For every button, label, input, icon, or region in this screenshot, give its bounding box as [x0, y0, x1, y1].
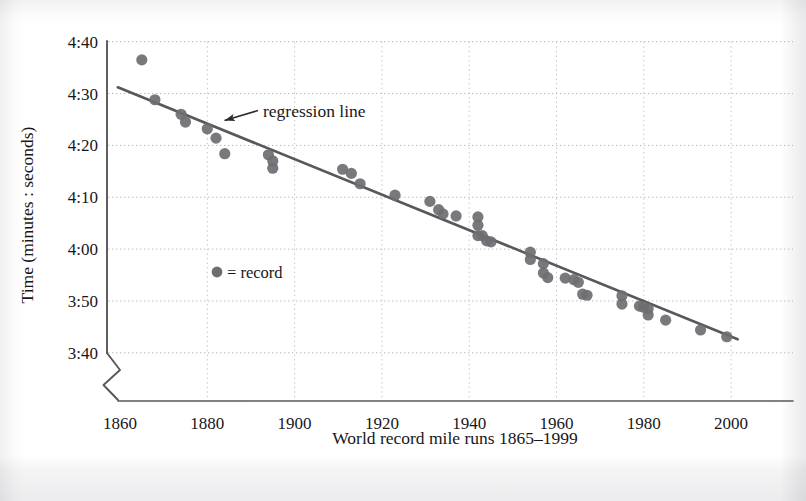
data-point — [219, 148, 230, 159]
data-point — [180, 116, 191, 127]
data-point — [542, 272, 553, 283]
data-point — [643, 309, 654, 320]
data-point — [581, 290, 592, 301]
data-point — [149, 94, 160, 105]
data-point — [267, 163, 278, 174]
data-point — [424, 196, 435, 207]
grid-lines-vertical — [207, 42, 731, 398]
y-axis-title: Time (minutes : seconds) — [17, 126, 37, 303]
y-axis-tick-labels: 4:404:304:204:104:003:503:40 — [68, 33, 98, 363]
data-point — [485, 236, 496, 247]
y-tick-label-3-50: 3:50 — [68, 292, 98, 311]
regression-line-annotation: regression line — [225, 101, 366, 121]
y-tick-label-3-40: 3:40 — [68, 344, 98, 363]
annotation-arrow-icon — [225, 111, 259, 121]
data-point — [472, 220, 483, 231]
legend-label: = record — [227, 263, 283, 282]
data-point — [437, 208, 448, 219]
data-point — [616, 298, 627, 309]
data-point — [451, 210, 462, 221]
data-point — [721, 331, 732, 342]
data-point — [573, 277, 584, 288]
data-point — [210, 133, 221, 144]
y-tick-label-4-40: 4:40 — [68, 33, 98, 52]
x-axis-title: World record mile runs 1865–1999 — [332, 428, 578, 448]
x-tick-label-2000: 2000 — [714, 414, 748, 433]
y-tick-label-4-00: 4:00 — [68, 240, 98, 259]
mile-run-scatter-figure: 4:404:304:204:104:003:503:40 18601880190… — [0, 0, 806, 501]
data-points-group — [136, 54, 732, 342]
y-axis-break-zigzag — [104, 353, 121, 400]
data-point — [346, 168, 357, 179]
legend-marker-icon — [212, 267, 223, 278]
data-point — [136, 54, 147, 65]
x-tick-label-1900: 1900 — [278, 414, 312, 433]
data-point — [202, 123, 213, 134]
grid-lines-horizontal — [108, 42, 793, 353]
chart-svg: 4:404:304:204:104:003:503:40 18601880190… — [0, 0, 806, 501]
data-point — [354, 178, 365, 189]
x-tick-label-1980: 1980 — [627, 414, 661, 433]
annotation-label: regression line — [263, 101, 366, 121]
x-tick-label-1860: 1860 — [103, 414, 137, 433]
legend: = record — [212, 263, 284, 282]
y-tick-label-4-20: 4:20 — [68, 136, 98, 155]
data-point — [389, 190, 400, 201]
y-tick-label-4-10: 4:10 — [68, 188, 98, 207]
y-tick-label-4-30: 4:30 — [68, 85, 98, 104]
data-point — [660, 315, 671, 326]
data-point — [695, 324, 706, 335]
x-tick-label-1880: 1880 — [190, 414, 224, 433]
data-point — [525, 254, 536, 265]
